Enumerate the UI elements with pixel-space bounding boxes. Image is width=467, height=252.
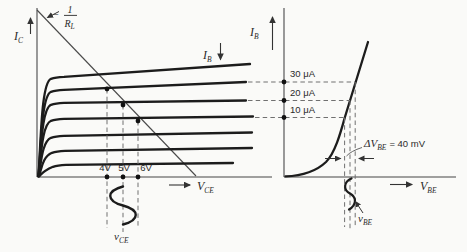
- ib-axis-label: IB: [249, 25, 259, 41]
- level-10ua-label: 10 μA: [290, 104, 316, 115]
- dot-10ua: [282, 115, 287, 120]
- q-point-6v: [136, 119, 141, 124]
- level-20ua-label: 20 μA: [290, 87, 316, 98]
- vce-axis-label: VCE: [197, 179, 214, 195]
- q-point-5v: [121, 103, 126, 108]
- collector-curve-1: [39, 64, 251, 176]
- delta-vbe-annotation: ΔVBE= 40 mV: [325, 137, 426, 159]
- slope-minus: −: [52, 8, 59, 20]
- tick-6v: 6V: [140, 162, 152, 173]
- q-point-4v: [105, 87, 110, 92]
- ib-direction-label: IB: [202, 48, 212, 64]
- slope-denominator: RL: [64, 18, 75, 31]
- axis-dot-4v: [105, 175, 110, 180]
- dot-20ua: [282, 98, 287, 103]
- slope-label: − 1 RL: [48, 4, 78, 31]
- left-plot: IC − 1 RL IB 4V 5V 6V VCE vCE: [13, 4, 272, 245]
- slope-numerator: 1: [68, 4, 73, 15]
- tick-5v: 5V: [118, 162, 130, 173]
- vbe-signal-label: vBE: [358, 212, 372, 227]
- level-30ua-label: 30 μA: [290, 68, 316, 79]
- delta-vbe-label: ΔVBE= 40 mV: [363, 137, 426, 152]
- vbe-axis-label: VBE: [420, 179, 437, 195]
- axis-dot-6v: [136, 175, 141, 180]
- dot-30ua: [282, 80, 287, 85]
- vce-signal-label: vCE: [114, 230, 129, 245]
- delta-leader-line: [347, 148, 363, 157]
- collector-curve-7: [39, 163, 233, 177]
- figure-canvas: IC − 1 RL IB 4V 5V 6V VCE vCE: [0, 0, 467, 252]
- transistor-loadline-figure: IC − 1 RL IB 4V 5V 6V VCE vCE: [0, 0, 467, 252]
- right-plot: IB 30 μA 20 μA 10 μA ΔVBE= 40 mV VBE vBE: [248, 8, 456, 230]
- ic-axis-label: IC: [13, 29, 24, 45]
- tick-4v: 4V: [99, 162, 111, 173]
- axis-dot-5v: [121, 175, 126, 180]
